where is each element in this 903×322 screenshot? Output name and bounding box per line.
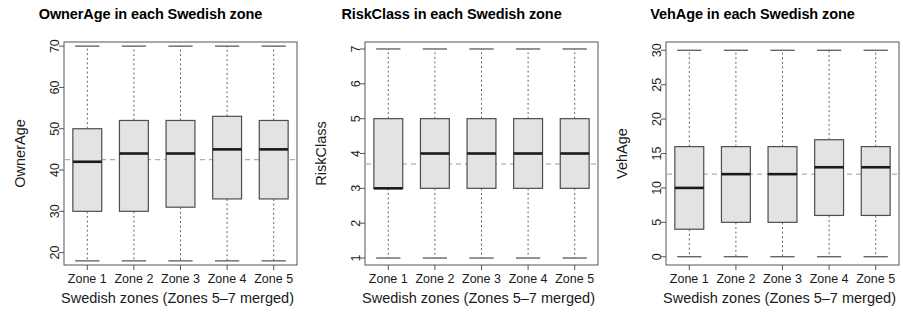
y-axis-title: RiskClass [313,121,329,185]
y-axis-tick-label: 7 [349,45,363,52]
chart-panel-risk-class: RiskClass in each Swedish zone 1234567Ri… [301,0,602,322]
y-axis-title: OwnerAge [12,119,28,188]
boxplot-figure: OwnerAge in each Swedish zone 2030405060… [0,0,903,322]
y-axis-tick-label: 30 [650,43,664,57]
plot-area-risk-class: 1234567RiskClassZone 1Zone 2Zone 3Zone 4… [301,0,602,322]
boxplot-box [721,50,750,256]
x-axis-category-label: Zone 4 [208,272,247,286]
x-axis-category-label: Zone 1 [369,272,408,286]
y-axis-tick-label: 10 [650,181,664,195]
boxplot-box [73,46,102,261]
x-axis-category-label: Zone 3 [161,272,200,286]
x-axis-category-label: Zone 5 [254,272,293,286]
boxplot-box [560,49,589,258]
x-axis-category-label: Zone 3 [763,272,802,286]
y-axis-tick-label: 6 [349,80,363,87]
y-axis-tick-label: 60 [48,80,62,94]
boxplot-box [815,50,844,256]
y-axis-tick-label: 3 [349,185,363,192]
plot-area-owner-age: 203040506070OwnerAgeZone 1Zone 2Zone 3Zo… [0,0,301,322]
x-axis-category-label: Zone 5 [555,272,594,286]
boxplot-box [119,46,148,261]
y-axis-title: VehAge [614,128,630,179]
x-axis-title: Swedish zones (Zones 5–7 merged) [61,290,294,306]
box-iqr [259,120,288,198]
y-axis-tick-label: 40 [48,163,62,177]
y-axis-tick-label: 5 [650,219,664,226]
y-axis-tick-label: 0 [650,253,664,260]
chart-panel-owner-age: OwnerAge in each Swedish zone 2030405060… [0,0,301,322]
box-iqr [166,120,195,207]
boxplot-box [374,49,403,258]
box-iqr [374,119,403,189]
y-axis-tick-label: 50 [48,122,62,136]
x-axis-category-label: Zone 4 [810,272,849,286]
y-axis-tick-label: 5 [349,115,363,122]
boxplot-box [768,50,797,256]
x-axis-category-label: Zone 1 [670,272,709,286]
boxplot-box [861,50,890,256]
x-axis-category-label: Zone 2 [716,272,755,286]
chart-panel-veh-age: VehAge in each Swedish zone 051015202530… [602,0,903,322]
box-iqr [73,129,102,212]
x-axis-category-label: Zone 2 [114,272,153,286]
box-iqr [861,147,890,216]
y-axis-tick-label: 70 [48,39,62,53]
box-iqr [119,120,148,211]
x-axis-title: Swedish zones (Zones 5–7 merged) [362,290,595,306]
boxplot-box [514,49,543,258]
y-axis-tick-label: 25 [650,78,664,92]
x-axis-category-label: Zone 1 [68,272,107,286]
y-axis-tick-label: 20 [650,112,664,126]
x-axis-category-label: Zone 2 [415,272,454,286]
box-iqr [721,147,750,223]
box-iqr [213,116,242,199]
y-axis-tick-label: 2 [349,220,363,227]
y-axis-tick-label: 15 [650,147,664,161]
boxplot-box [675,50,704,256]
box-iqr [815,140,844,216]
boxplot-box [166,46,195,261]
x-axis-category-label: Zone 5 [856,272,895,286]
box-iqr [768,147,797,223]
y-axis-tick-label: 1 [349,255,363,262]
x-axis-category-label: Zone 4 [509,272,548,286]
x-axis-category-label: Zone 3 [462,272,501,286]
boxplot-box [420,49,449,258]
boxplot-box [259,46,288,261]
y-axis-tick-label: 4 [349,150,363,157]
y-axis-tick-label: 20 [48,246,62,260]
boxplot-box [213,46,242,261]
y-axis-tick-label: 30 [48,204,62,218]
boxplot-box [467,49,496,258]
x-axis-title: Swedish zones (Zones 5–7 merged) [663,290,896,306]
plot-area-veh-age: 051015202530VehAgeZone 1Zone 2Zone 3Zone… [602,0,903,322]
